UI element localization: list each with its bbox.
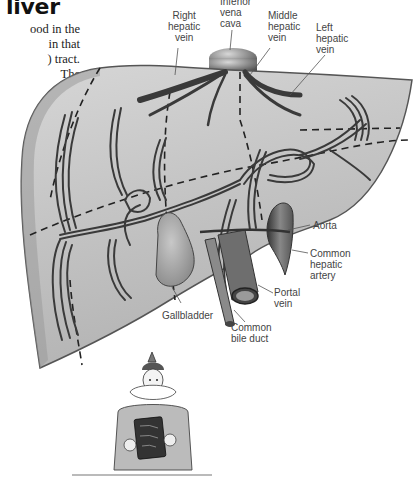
label-left-hepatic-vein: Left hepatic vein (316, 22, 348, 55)
label-common-hepatic-artery: Common hepatic artery (310, 248, 351, 281)
liver-outline (21, 65, 412, 368)
label-gallbladder: Gallbladder (162, 310, 213, 321)
label-portal-vein: Portal vein (274, 287, 300, 309)
inferior-vena-cava (209, 48, 257, 72)
label-inferior-vena-cava: Inferior vena cava (220, 0, 251, 29)
label-middle-hepatic-vein: Middle hepatic vein (268, 10, 300, 43)
label-common-bile-duct: Common bile duct (231, 322, 272, 344)
aorta (267, 203, 293, 275)
label-right-hepatic-vein: Right hepatic vein (168, 10, 200, 43)
queen-illustration (114, 352, 192, 470)
liver-diagram (0, 0, 416, 483)
label-aorta: Aorta (313, 220, 337, 231)
